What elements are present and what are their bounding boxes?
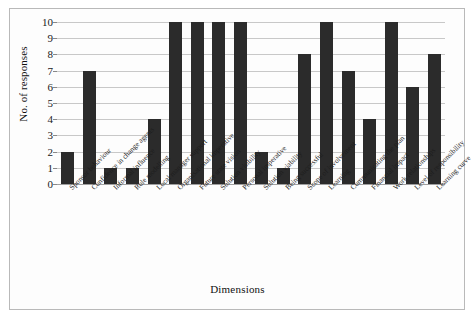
y-tick-8: 8 (31, 49, 53, 60)
y-tick-4: 4 (31, 114, 53, 125)
y-tick-2: 2 (31, 147, 53, 158)
y-axis-ticks: 10 9 8 7 6 5 4 3 2 1 0 (29, 22, 53, 184)
y-tick-0: 0 (31, 179, 53, 190)
y-axis-title: No. of responses (17, 24, 29, 144)
bar-chart: 10 9 8 7 6 5 4 3 2 1 0 No. of responses … (0, 0, 475, 323)
y-tick-9: 9 (31, 33, 53, 44)
y-tick-7: 7 (31, 66, 53, 77)
y-tick-10: 10 (31, 17, 53, 28)
y-tick-5: 5 (31, 98, 53, 109)
x-axis-title: Dimensions (0, 283, 475, 295)
x-axis-labels: Sponsor behaviourConfidence in change ag… (57, 186, 457, 278)
y-tick-mark (53, 184, 57, 185)
y-tick-1: 1 (31, 163, 53, 174)
y-tick-6: 6 (31, 82, 53, 93)
y-tick-3: 3 (31, 130, 53, 141)
